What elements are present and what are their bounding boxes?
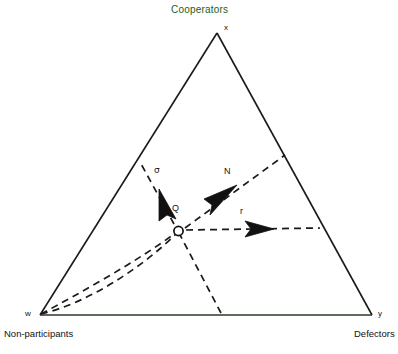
- nullcline-curves: [41, 232, 177, 314]
- sigma-axis-line: [140, 162, 221, 313]
- corner-label-cooperators: Cooperators: [171, 5, 228, 15]
- vector-label-sigma: σ: [154, 166, 160, 175]
- nullcline-curve-lower: [41, 233, 177, 314]
- q-equilibrium-point: [174, 226, 183, 235]
- ternary-simplex-figure: Cooperators Non-participants Defectors x…: [0, 0, 398, 354]
- vertex-letter-w: w: [25, 310, 31, 318]
- n-axis-segment: [185, 155, 285, 228]
- nullcline-curve-upper: [41, 232, 177, 314]
- vertex-letter-y: y: [378, 310, 382, 318]
- triangle-edge-right: [217, 33, 372, 315]
- equilibrium-label-q: Q: [172, 204, 179, 213]
- triangle-outline: [40, 33, 372, 315]
- sigma-axis-lower-segment: [179, 233, 221, 313]
- corner-label-non-participants: Non-participants: [4, 329, 73, 339]
- corner-label-defectors: Defectors: [354, 329, 395, 339]
- q-point-marker: [174, 226, 183, 235]
- vertex-letter-x: x: [224, 24, 228, 32]
- vector-label-r: r: [240, 207, 243, 216]
- n-axis-line: [185, 155, 285, 228]
- simplex-canvas: [0, 0, 398, 354]
- vector-label-n: N: [224, 167, 231, 176]
